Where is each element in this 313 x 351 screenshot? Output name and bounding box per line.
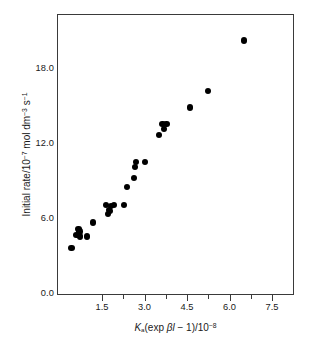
x-tick-minor-6-75 [251, 295, 252, 299]
data-points-layer [58, 15, 293, 294]
data-point [163, 121, 169, 127]
data-point [187, 104, 193, 110]
data-point [124, 184, 130, 190]
data-point [77, 233, 83, 239]
x-tick-label-1-5: 1.5 [82, 303, 122, 312]
data-point [121, 202, 127, 208]
scatter-plot-figure: 18.0 12.0 6.0 0.0 1.5 3.0 4.5 6.0 7.5 In… [0, 0, 313, 351]
data-point [142, 159, 148, 165]
data-point [241, 37, 247, 43]
data-point [156, 132, 162, 138]
x-tick-minor-2-25 [123, 295, 124, 299]
x-tick-label-3-0: 3.0 [125, 303, 165, 312]
data-point [68, 245, 74, 251]
x-tick-label-4-5: 4.5 [167, 303, 207, 312]
data-point [205, 88, 211, 94]
data-point [90, 219, 96, 225]
data-point [111, 202, 117, 208]
x-tick-major-1-5 [102, 295, 103, 301]
plot-area [57, 14, 294, 295]
x-tick-major-3-0 [145, 295, 146, 301]
x-tick-label-7-5: 7.5 [252, 303, 292, 312]
data-point [133, 159, 139, 165]
x-tick-minor-3-75 [166, 295, 167, 299]
x-tick-label-6-0: 6.0 [210, 303, 250, 312]
data-point [84, 233, 90, 239]
x-tick-major-7-5 [272, 295, 273, 301]
y-axis-title: Initial rate/10−7 mol dm−3 s−1 [18, 14, 34, 295]
data-point [131, 175, 137, 181]
x-axis-title: Ka(exp βl − 1)/10−8 [57, 320, 294, 337]
x-tick-major-4-5 [187, 295, 188, 301]
x-tick-major-6-0 [230, 295, 231, 301]
x-axis-title-text: Ka(exp βl − 1)/10−8 [134, 322, 216, 333]
y-axis-title-text: Initial rate/10−7 mol dm−3 s−1 [19, 93, 33, 217]
x-tick-minor-5-25 [208, 295, 209, 299]
